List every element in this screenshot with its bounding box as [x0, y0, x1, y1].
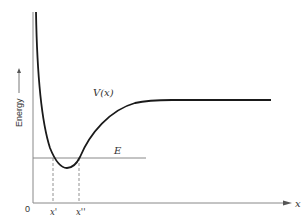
energy-axis-label: Energy: [14, 68, 24, 127]
curve-label: V(x): [93, 87, 114, 98]
turning-point-label-2: x'': [76, 207, 85, 217]
x-axis-label: x: [295, 198, 301, 209]
up-arrow-icon: [17, 68, 21, 73]
potential-curve: [36, 12, 271, 168]
x-axis-arrow-icon: [283, 201, 292, 206]
energy-level-label: E: [113, 145, 122, 156]
origin-label: 0: [25, 204, 30, 214]
turning-point-label-1: x': [50, 207, 57, 217]
potential-energy-diagram: Energy V(x) E 0 x' x'' x: [0, 0, 307, 222]
svg-text:Energy: Energy: [14, 98, 24, 127]
